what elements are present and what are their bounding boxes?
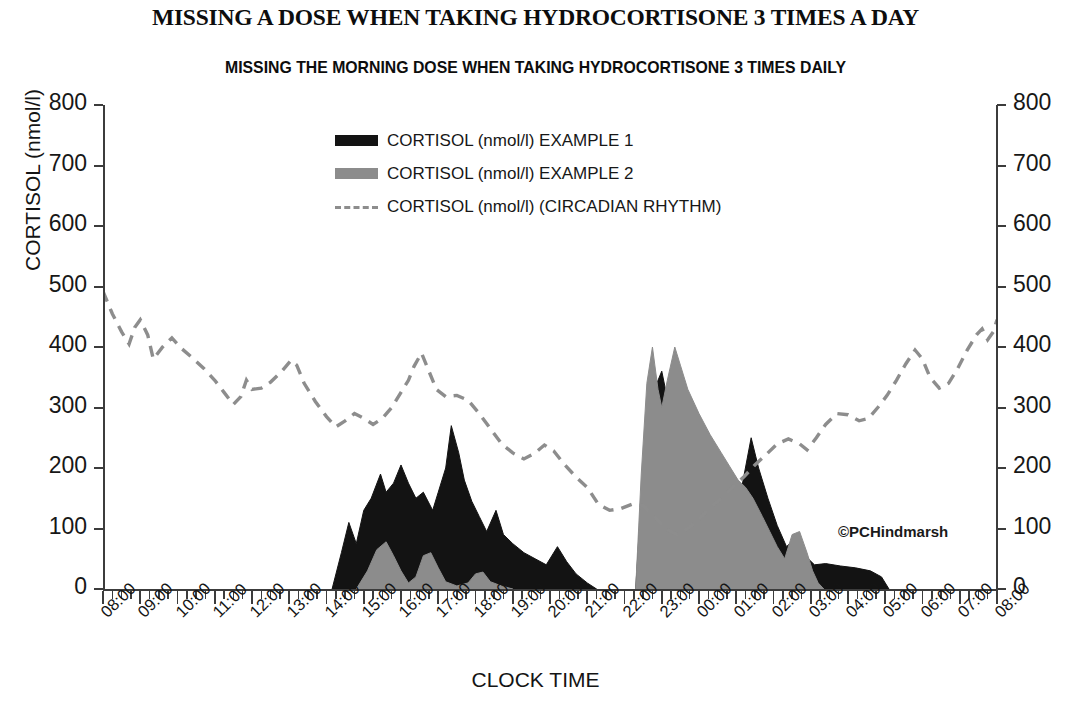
y-tick-left-600 (94, 225, 103, 227)
legend-label-0: CORTISOL (nmol/l) EXAMPLE 1 (387, 131, 634, 151)
y-tick-right-400 (997, 346, 1006, 348)
copyright-credit: ©PCHindmarsh (838, 523, 948, 540)
y-tick-label-left-600: 600 (23, 210, 87, 237)
series-circadian-line (103, 291, 997, 534)
y-tick-label-right-300: 300 (1013, 392, 1051, 419)
y-tick-left-300 (94, 407, 103, 409)
y-tick-label-right-600: 600 (1013, 210, 1051, 237)
chart-subtitle: MISSING THE MORNING DOSE WHEN TAKING HYD… (37, 58, 1033, 78)
chart-figure: MISSING A DOSE WHEN TAKING HYDROCORTISON… (0, 0, 1071, 707)
legend-item-0[interactable]: CORTISOL (nmol/l) EXAMPLE 1 (335, 124, 805, 157)
y-tick-right-0 (997, 588, 1006, 590)
series-path-2 (103, 291, 997, 534)
y-tick-left-800 (94, 104, 103, 106)
y-tick-label-right-500: 500 (1013, 271, 1051, 298)
legend-swatch-filled-area-gray-icon (335, 168, 378, 179)
y-tick-label-left-400: 400 (23, 331, 87, 358)
y-tick-label-left-700: 700 (23, 150, 87, 177)
y-tick-label-left-300: 300 (23, 392, 87, 419)
x-axis-title: CLOCK TIME (0, 668, 1071, 692)
y-tick-label-right-400: 400 (1013, 331, 1051, 358)
legend-item-2[interactable]: CORTISOL (nmol/l) (CIRCADIAN RHYTHM) (335, 190, 805, 223)
legend-label-1: CORTISOL (nmol/l) EXAMPLE 2 (387, 164, 634, 184)
legend-swatch-dashed-line-icon (335, 206, 378, 209)
chart-title: MISSING A DOSE WHEN TAKING HYDROCORTISON… (0, 4, 1071, 31)
y-tick-right-100 (997, 528, 1006, 530)
y-tick-label-left-100: 100 (23, 513, 87, 540)
y-tick-right-600 (997, 225, 1006, 227)
y-tick-label-left-0: 0 (23, 573, 87, 600)
chart-legend: CORTISOL (nmol/l) EXAMPLE 1CORTISOL (nmo… (335, 124, 805, 223)
y-tick-left-100 (94, 528, 103, 530)
y-tick-label-left-500: 500 (23, 271, 87, 298)
y-tick-left-700 (94, 165, 103, 167)
legend-swatch-filled-area-black-icon (335, 135, 378, 146)
y-tick-right-800 (997, 104, 1006, 106)
y-axis-title: CORTISOL (nmol/l) (21, 89, 45, 271)
y-tick-right-200 (997, 467, 1006, 469)
y-tick-label-right-100: 100 (1013, 513, 1051, 540)
y-tick-left-0 (94, 588, 103, 590)
y-axis-right-line (996, 105, 998, 591)
y-tick-right-500 (997, 286, 1006, 288)
y-tick-label-right-700: 700 (1013, 150, 1051, 177)
legend-label-2: CORTISOL (nmol/l) (CIRCADIAN RHYTHM) (387, 197, 721, 217)
y-tick-label-left-200: 200 (23, 452, 87, 479)
y-tick-label-right-800: 800 (1013, 89, 1051, 116)
y-tick-label-left-800: 800 (23, 89, 87, 116)
y-axis-left-line (103, 105, 105, 591)
y-tick-left-200 (94, 467, 103, 469)
legend-item-1[interactable]: CORTISOL (nmol/l) EXAMPLE 2 (335, 157, 805, 190)
y-tick-label-right-200: 200 (1013, 452, 1051, 479)
y-tick-left-500 (94, 286, 103, 288)
y-tick-left-400 (94, 346, 103, 348)
y-tick-right-300 (997, 407, 1006, 409)
y-tick-right-700 (997, 165, 1006, 167)
